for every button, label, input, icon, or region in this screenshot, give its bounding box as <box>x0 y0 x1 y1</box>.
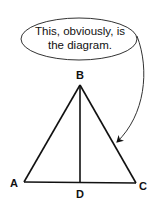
triangle-abc <box>24 85 136 183</box>
side-ab <box>24 85 80 182</box>
diagram-canvas: This, obviously, is the diagram. B A C D <box>0 0 159 205</box>
callout-arrow <box>117 36 144 142</box>
label-b: B <box>76 69 84 81</box>
side-bc <box>80 85 136 183</box>
label-c: C <box>139 180 147 192</box>
label-d: D <box>76 188 84 200</box>
callout-bubble: This, obviously, is the diagram. <box>21 18 137 60</box>
callout-text-line2: the diagram. <box>48 39 112 51</box>
label-a: A <box>10 177 18 189</box>
side-ac <box>24 182 136 183</box>
callout-text-line1: This, obviously, is <box>35 25 125 37</box>
